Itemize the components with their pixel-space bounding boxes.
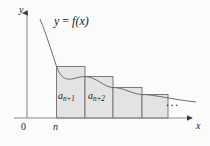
curve-label-equals: = (59, 14, 72, 28)
figure-canvas (0, 0, 210, 146)
integral-test-figure: y x 0 n y = f(x) an+1 an+2 ... (0, 0, 210, 146)
x-axis-label: x (196, 121, 200, 131)
bar-rect-4 (142, 95, 168, 119)
bar-label-2-subscript: n+2 (93, 95, 105, 103)
y-axis-label: y (19, 5, 23, 15)
bar-label-1: an+1 (58, 91, 75, 103)
curve-equation-label: y = f(x) (54, 15, 89, 27)
bar-label-1-subscript: n+1 (63, 95, 75, 103)
curve-label-function: f(x) (72, 14, 89, 28)
x-tick-label-n: n (53, 122, 58, 132)
ellipsis-label: ... (166, 96, 180, 108)
bar-rect-3 (113, 88, 142, 119)
origin-label: 0 (21, 122, 26, 132)
bar-label-2: an+2 (88, 91, 105, 103)
